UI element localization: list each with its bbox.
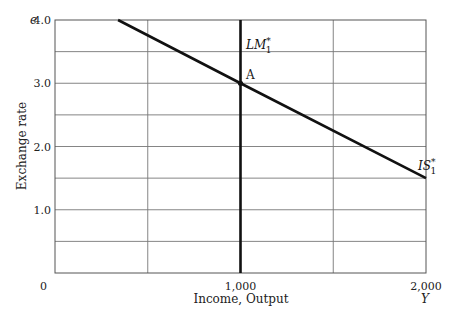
is-curve bbox=[118, 20, 426, 178]
is-curve-label: IS*1 bbox=[417, 157, 436, 176]
y-tick-label: 2.0 bbox=[34, 141, 52, 154]
equilibrium-point-a bbox=[238, 81, 243, 86]
x-axis-variable: Y bbox=[421, 292, 430, 306]
is-lm-chart: 1.02.03.04.01,0002,000 e Exchange rate 0… bbox=[0, 0, 458, 319]
y-axis-variable: e bbox=[30, 13, 37, 27]
origin-label: 0 bbox=[40, 280, 47, 293]
is-curve-subscript: 1 bbox=[430, 166, 436, 176]
lm-curve-name: LM bbox=[245, 38, 267, 52]
is-curve-name: IS bbox=[417, 159, 431, 173]
lm-curve-label: LM*1 bbox=[245, 36, 272, 55]
y-tick-label: 1.0 bbox=[34, 204, 52, 217]
x-axis-title: Income, Output bbox=[193, 292, 288, 306]
y-axis-title: Exchange rate bbox=[15, 102, 29, 190]
lm-curve-subscript: 1 bbox=[266, 45, 272, 55]
y-tick-label: 3.0 bbox=[34, 77, 52, 90]
point-a-label: A bbox=[245, 68, 255, 82]
